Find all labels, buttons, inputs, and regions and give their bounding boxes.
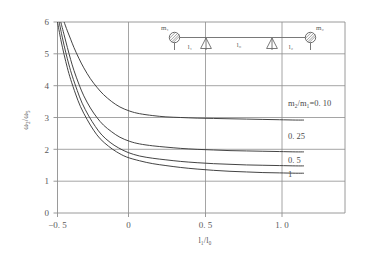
x-tick-label-n05: −0. 5 <box>48 220 67 230</box>
y-tick-label-0: 0 <box>45 208 50 218</box>
curve-labels: m₂/m₁=0. 10 0. 25 0. 5 1 <box>288 98 331 179</box>
inset-support-right-icon <box>267 38 278 50</box>
inset-mass-left-icon <box>169 32 179 50</box>
curve-series-2 <box>59 22 304 166</box>
curve-series-3 <box>58 22 304 173</box>
y-tick-label-4: 4 <box>45 81 50 91</box>
y-tick-labels: 0 1 2 3 4 5 6 <box>45 17 50 218</box>
inset-label-span-left: l₁ <box>188 43 192 51</box>
inset-support-left-icon <box>201 38 212 50</box>
x-tick-label-10: 1. 0 <box>275 220 289 230</box>
x-tick-marks <box>58 213 283 217</box>
inset-label-span-mid: l₀ <box>237 41 242 49</box>
inset-beam-diagram: m₁ m₂ l₁ l₀ l₂ <box>161 24 324 51</box>
x-tick-label-05: 0. 5 <box>199 220 213 230</box>
inset-label-mass-left: m₁ <box>161 24 169 32</box>
chart-svg: 0 1 2 3 4 5 6 −0. 5 0 0. 5 1. 0 l₁/l₀ ω₂… <box>0 0 382 263</box>
curve-label-0: m₂/m₁=0. 10 <box>288 98 331 108</box>
inset-label-mass-right: m₂ <box>316 24 324 32</box>
y-tick-label-3: 3 <box>45 113 50 123</box>
x-tick-label-0: 0 <box>126 220 131 230</box>
inset-mass-right-icon <box>305 32 315 50</box>
x-axis-title: l₁/l₀ <box>198 235 211 245</box>
curve-series-0 <box>64 22 304 120</box>
y-tick-marks <box>54 22 58 213</box>
curve-label-1: 0. 25 <box>288 131 305 141</box>
y-tick-label-6: 6 <box>45 17 50 27</box>
curve-group <box>58 22 304 173</box>
curve-label-2: 0. 5 <box>288 155 301 165</box>
curve-label-3: 1 <box>288 169 292 179</box>
x-tick-labels: −0. 5 0 0. 5 1. 0 <box>48 220 289 230</box>
y-tick-label-5: 5 <box>45 49 50 59</box>
horizontal-gridlines <box>58 54 346 181</box>
chart-container: 0 1 2 3 4 5 6 −0. 5 0 0. 5 1. 0 l₁/l₀ ω₂… <box>0 0 382 263</box>
y-tick-label-2: 2 <box>45 145 50 155</box>
y-axis-title: ω₂/ω₅ <box>20 110 30 130</box>
inset-label-span-right: l₂ <box>289 43 294 51</box>
y-tick-label-1: 1 <box>45 176 50 186</box>
